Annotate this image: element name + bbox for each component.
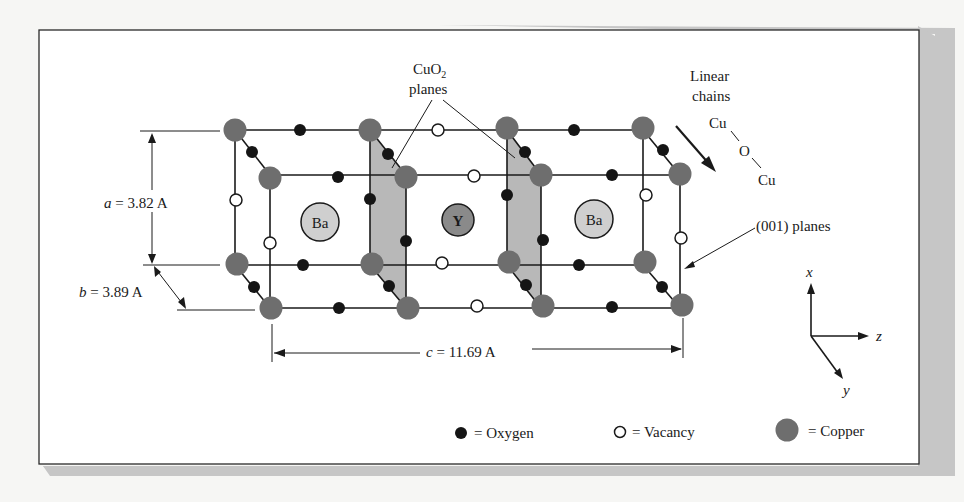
ba-atom-right: Ba	[575, 200, 613, 238]
legend-copper-label: = Copper	[808, 423, 864, 439]
svg-text:Y: Y	[453, 213, 464, 229]
legend-vacancy-label: = Vacancy	[632, 424, 695, 440]
legend-copper-icon	[776, 419, 799, 442]
svg-text:chains: chains	[692, 88, 730, 104]
figure-frame	[39, 30, 919, 464]
dimension-a-label: a = 3.82 A	[104, 195, 168, 211]
y-atom: Y	[442, 204, 474, 236]
legend-oxygen-label: = Oxygen	[474, 425, 534, 441]
axis-x-label: x	[805, 264, 813, 280]
legend-vacancy-icon	[615, 427, 626, 438]
svg-text:Cu: Cu	[758, 172, 776, 188]
dimension-c-label: c = 11.69 A	[426, 344, 496, 360]
dimension-b-label: b = 3.89 A	[79, 284, 143, 300]
frame-shadow-bottom	[43, 466, 955, 476]
svg-text:(001) planes: (001) planes	[756, 218, 831, 235]
svg-text:O: O	[739, 143, 750, 159]
frame-shadow-right	[918, 26, 935, 468]
svg-text:planes: planes	[409, 81, 447, 97]
legend-oxygen-icon	[455, 427, 467, 439]
svg-text:Ba: Ba	[312, 215, 329, 231]
svg-text:Ba: Ba	[586, 212, 603, 228]
svg-text:Linear: Linear	[690, 68, 729, 84]
ba-atom-left: Ba	[301, 203, 339, 241]
crystal-structure-figure: Ba Y Ba CuO2 planes Linear chains Cu O C…	[0, 0, 964, 502]
axis-y-label: y	[841, 382, 850, 398]
svg-text:Cu: Cu	[709, 115, 727, 131]
axis-z-label: z	[875, 328, 882, 344]
